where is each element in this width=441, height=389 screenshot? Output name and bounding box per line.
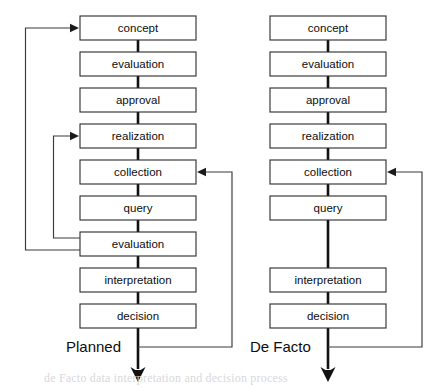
step-label-de-facto-8: interpretation (294, 274, 361, 286)
column-planned: conceptevaluationapprovalrealizationcoll… (26, 16, 233, 382)
figure-caption-strip: de Facto data interpretation and decisio… (0, 373, 441, 389)
step-label-planned-2: evaluation (112, 58, 164, 70)
step-label-de-facto-9: decision (307, 310, 349, 322)
step-label-de-facto-6: query (314, 202, 343, 214)
loop-arrowhead-de-facto-output-to-collection (387, 168, 396, 176)
step-label-de-facto-1: concept (308, 22, 349, 34)
step-label-planned-7: evaluation (112, 238, 164, 250)
step-label-de-facto-4: realization (302, 130, 354, 142)
feedback-loop-planned-evaluation-to-realization (54, 132, 81, 238)
loop-arrowhead-planned-evaluation-to-concept (70, 24, 79, 32)
step-label-de-facto-2: evaluation (302, 58, 354, 70)
step-label-de-facto-5: collection (304, 166, 352, 178)
step-label-planned-6: query (124, 202, 153, 214)
column-de-facto: conceptevaluationapprovalrealizationcoll… (270, 16, 422, 382)
column-label-planned: Planned (66, 338, 121, 355)
figure-caption: de Facto data interpretation and decisio… (44, 373, 288, 386)
step-label-planned-1: concept (118, 22, 159, 34)
step-label-de-facto-3: approval (306, 94, 350, 106)
process-flow-figure: conceptevaluationapprovalrealizationcoll… (0, 0, 441, 389)
loop-path-evaluation-to-realization (54, 136, 81, 238)
column-label-de-facto: De Facto (250, 338, 311, 355)
step-label-planned-8: interpretation (104, 274, 171, 286)
loop-arrowhead-planned-evaluation-to-realization (70, 132, 79, 140)
flowchart-canvas: conceptevaluationapprovalrealizationcoll… (0, 0, 441, 389)
step-label-planned-3: approval (116, 94, 160, 106)
step-label-planned-9: decision (117, 310, 159, 322)
step-label-planned-4: realization (112, 130, 164, 142)
loop-arrowhead-planned-output-to-collection (197, 168, 206, 176)
step-label-planned-5: collection (114, 166, 162, 178)
